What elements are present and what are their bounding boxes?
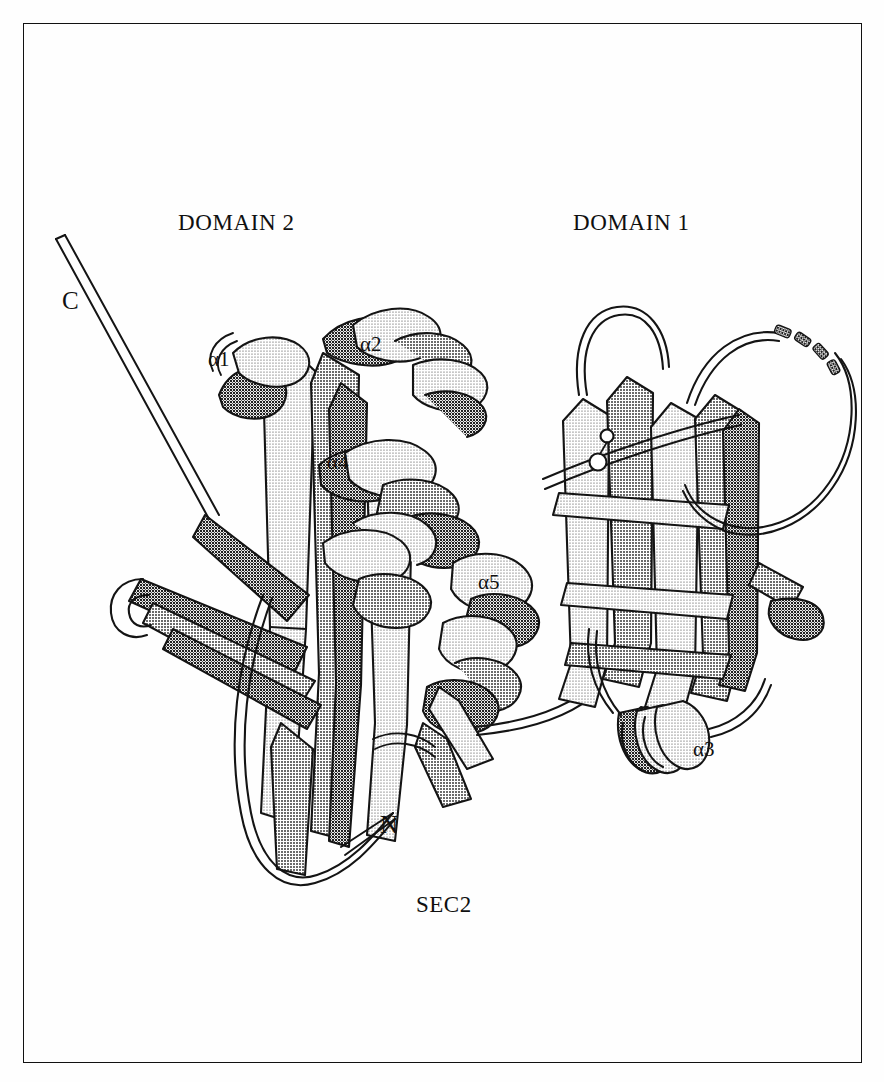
alpha2-label: α2 xyxy=(360,334,382,355)
domain-2-label: DOMAIN 2 xyxy=(178,211,295,234)
domain-1-label: DOMAIN 1 xyxy=(573,211,690,234)
alpha4-label: α4 xyxy=(327,452,349,473)
c-terminus-label: C xyxy=(62,288,79,313)
alpha5-label: α5 xyxy=(478,572,500,593)
alpha1-label: α1 xyxy=(208,349,230,370)
figure-caption: SEC2 xyxy=(416,893,472,916)
figure-canvas: DOMAIN 2 DOMAIN 1 C N α1 α2 α4 α5 α3 SEC… xyxy=(0,0,884,1082)
domain1-beta-barrel xyxy=(553,377,824,739)
disordered-dash-segment xyxy=(774,324,841,375)
c-terminal-tail xyxy=(56,235,219,519)
alpha3-label: α3 xyxy=(693,739,715,760)
n-terminus-label: N xyxy=(380,812,398,837)
